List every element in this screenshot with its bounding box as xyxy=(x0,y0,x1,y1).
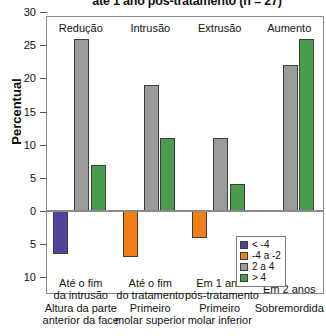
bar-3-2 xyxy=(283,65,298,211)
y-tick-mark xyxy=(40,12,47,13)
y-tick-label: 25 xyxy=(0,40,36,50)
x-period-label-0: Até o fimda intrusão xyxy=(46,277,116,301)
x-period-line: da intrusão xyxy=(46,289,116,301)
bar-3-3 xyxy=(299,39,314,211)
x-category-label-3: Sobremordida xyxy=(249,302,326,314)
bar-1-2 xyxy=(144,85,159,211)
y-tick-label: 10 xyxy=(0,140,36,150)
bar-0-0 xyxy=(53,211,68,254)
y-tick-label: 10 xyxy=(0,272,36,282)
y-tick-mark xyxy=(40,178,47,179)
x-category-line: Sobremordida xyxy=(249,302,326,314)
x-period-label-1: Até o fimdo tratamento xyxy=(116,277,186,301)
chart-root: até 1 ano pós-tratamento (n = 27) Percen… xyxy=(0,0,326,336)
legend-item-0[interactable]: < -4 xyxy=(240,240,281,250)
legend-swatch-icon xyxy=(240,241,248,249)
y-tick-mark xyxy=(40,78,47,79)
group-caption-3: Aumento xyxy=(255,22,325,34)
y-tick-mark xyxy=(40,145,47,146)
y-tick-mark xyxy=(40,112,47,113)
x-period-line: do tratamento xyxy=(116,289,186,301)
legend-swatch-icon xyxy=(240,263,248,271)
y-tick-label: 5 xyxy=(0,173,36,183)
legend-swatch-icon xyxy=(240,252,248,260)
y-tick-mark xyxy=(40,45,47,46)
bar-2-3 xyxy=(230,184,245,211)
x-period-line: pós-tratamento xyxy=(185,289,255,301)
legend-item-2[interactable]: 2 a 4 xyxy=(240,262,281,272)
legend-item-1[interactable]: -4 a -2 xyxy=(240,251,281,261)
y-tick-label: 0 xyxy=(0,206,36,216)
legend-swatch-icon xyxy=(240,274,248,282)
legend: < -4-4 a -22 a 4> 4 xyxy=(236,236,286,287)
y-tick-label: 15 xyxy=(0,107,36,117)
legend-label: > 4 xyxy=(252,273,266,283)
y-tick-label: 20 xyxy=(0,73,36,83)
y-tick-label: 5 xyxy=(0,239,36,249)
legend-label: 2 a 4 xyxy=(252,262,274,272)
legend-item-3[interactable]: > 4 xyxy=(240,273,281,283)
chart-title: até 1 ano pós-tratamento (n = 27) xyxy=(48,0,326,8)
legend-label: < -4 xyxy=(252,240,270,250)
bar-1-1 xyxy=(123,211,138,257)
legend-label: -4 a -2 xyxy=(252,251,281,261)
group-caption-1: Intrusão xyxy=(116,22,186,34)
bar-2-2 xyxy=(213,138,228,211)
bar-2-1 xyxy=(192,211,207,238)
y-tick-mark xyxy=(40,244,47,245)
group-caption-2: Extrusão xyxy=(185,22,255,34)
x-period-line: Até o fim xyxy=(116,277,186,289)
x-period-line: Até o fim xyxy=(46,277,116,289)
zero-baseline xyxy=(46,210,324,212)
x-category-line: molar inferior xyxy=(179,314,261,326)
bar-0-3 xyxy=(91,165,106,211)
bar-0-2 xyxy=(74,39,89,211)
bar-1-3 xyxy=(160,138,175,211)
group-caption-0: Redução xyxy=(46,22,116,34)
y-tick-label: 30 xyxy=(0,7,36,17)
